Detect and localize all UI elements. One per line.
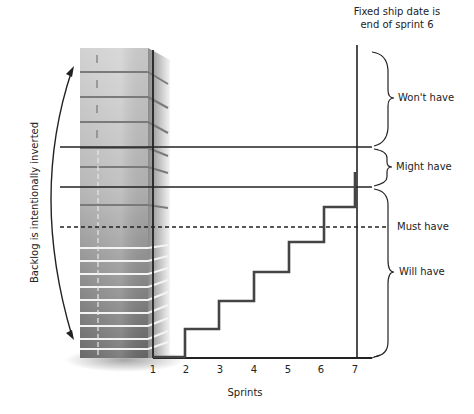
label-must-have: Must have <box>397 221 449 232</box>
svg-text:1: 1 <box>150 364 156 375</box>
label-will-have: Will have <box>399 266 445 277</box>
backlog-note: Backlog is intentionally inverted <box>29 122 40 283</box>
svg-text:6: 6 <box>318 364 324 375</box>
ship-date-note-line2: end of sprint 6 <box>360 19 433 30</box>
label-wont-have: Won't have <box>398 92 454 103</box>
svg-text:5: 5 <box>285 364 291 375</box>
braces <box>372 52 394 357</box>
x-axis-ticks: 1 2 3 4 5 6 7 <box>150 364 358 375</box>
backlog-stack <box>65 48 185 372</box>
svg-text:4: 4 <box>251 364 257 375</box>
label-might-have: Might have <box>396 161 452 172</box>
svg-text:7: 7 <box>352 364 358 375</box>
svg-text:3: 3 <box>217 364 223 375</box>
ship-date-note-line1: Fixed ship date is <box>354 6 441 17</box>
burnup-staircase <box>153 172 355 357</box>
backlog-inverted-arrow <box>51 66 74 340</box>
moscow-backlog-diagram: Backlog is intentionally inverted 1 2 3 … <box>0 0 474 414</box>
svg-text:2: 2 <box>183 364 189 375</box>
x-axis-label: Sprints <box>227 387 262 398</box>
